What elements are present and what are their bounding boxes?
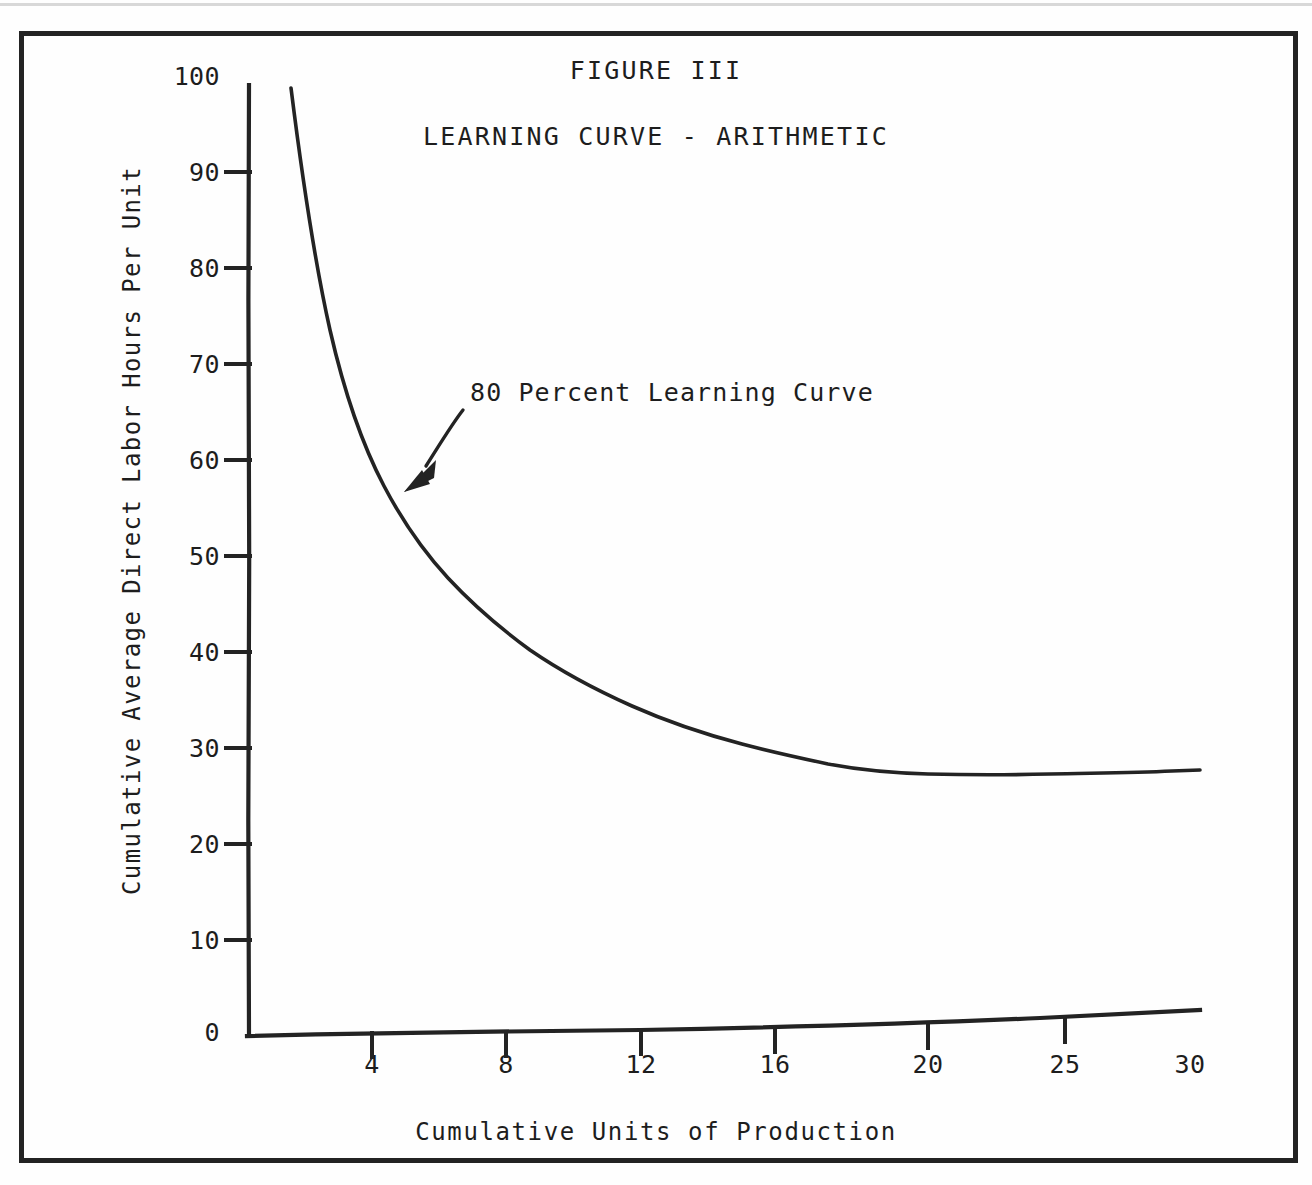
x-axis-line (247, 1010, 1200, 1036)
figure-page: FIGURE III LEARNING CURVE - ARITHMETIC 8… (0, 0, 1312, 1185)
annotation-arrow-shaft (426, 410, 463, 466)
y-axis-line (248, 85, 249, 1035)
learning-curve-line (291, 88, 1200, 775)
x-axis-ticks (372, 1018, 1065, 1057)
plot-vector-layer (0, 0, 1312, 1185)
figure-surface: FIGURE III LEARNING CURVE - ARITHMETIC 8… (0, 0, 1312, 1185)
